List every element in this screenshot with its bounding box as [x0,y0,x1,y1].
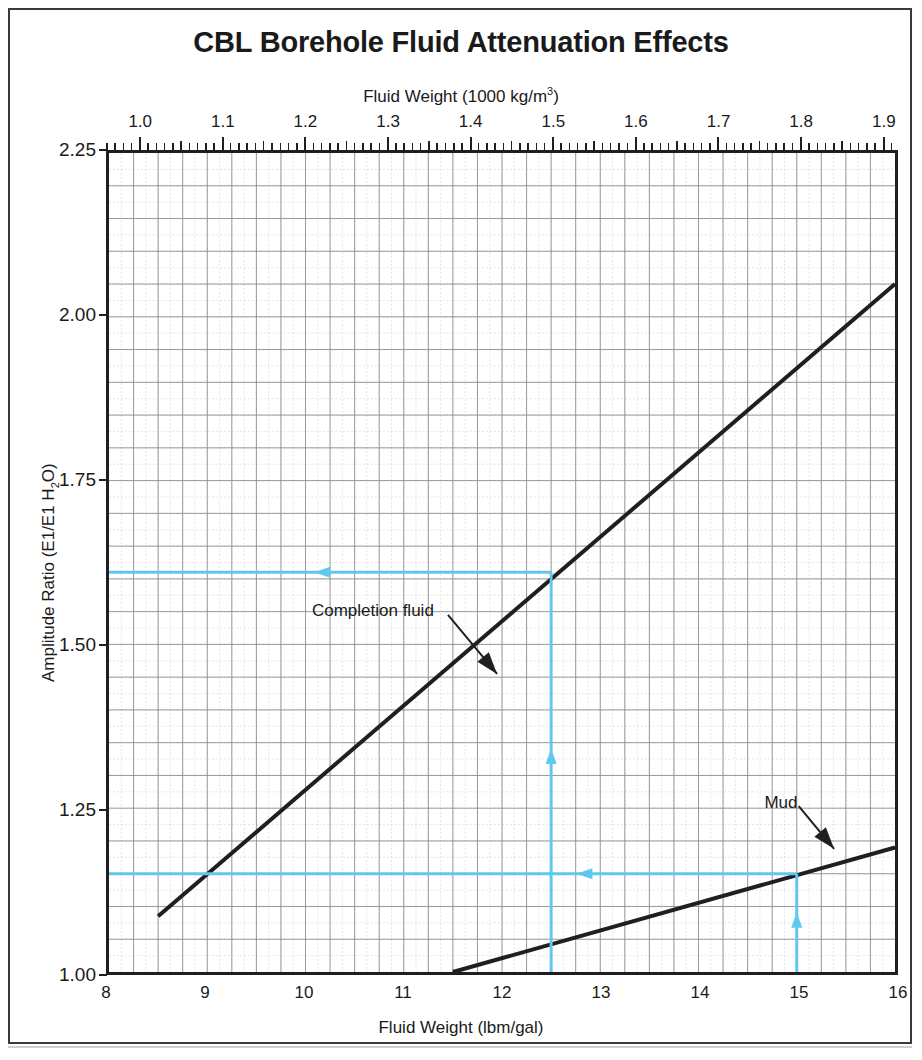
figure-page: CBL Borehole Fluid Attenuation Effects F… [0,0,922,1060]
y-tick-label-2.25: 2.25 [59,139,96,161]
top-tick-minor [329,143,331,150]
top-tick-minor [354,143,356,150]
top-tick-minor [156,143,158,150]
top-tick-minor [213,143,215,150]
y-tick-label-1.50: 1.50 [59,634,96,656]
top-tick-minor [618,143,620,150]
top-tick-minor [759,141,761,150]
top-tick-minor [660,143,662,150]
top-x-tick-label-1.0: 1.0 [128,112,152,132]
top-tick-minor [602,143,604,150]
top-tick-minor [668,143,670,150]
y-tick-label-1.75: 1.75 [59,469,96,491]
top-tick-minor [337,143,339,150]
top-tick-minor [246,143,248,150]
completion-fluid-vertical-arrowhead [546,748,557,764]
y-tick-label-1.25: 1.25 [59,799,96,821]
top-x-tick-label-1.7: 1.7 [707,112,731,132]
top-tick-minor [180,141,182,150]
top-tick-minor [676,141,678,150]
top-tick-minor [436,143,438,150]
top-tick-minor [131,143,133,150]
y-tick-label-1.00: 1.00 [59,964,96,986]
top-tick-minor [726,143,728,150]
mud-annotation-arrowhead [814,827,834,849]
x-tick-label-15: 15 [790,983,809,1003]
top-x-tick-label-1.2: 1.2 [294,112,318,132]
top-tick-minor [403,143,405,150]
top-tick-minor [313,143,315,150]
top-tick-minor [783,143,785,150]
top-tick-major [800,137,802,150]
top-tick-minor [255,143,257,150]
top-tick-minor [271,143,273,150]
top-x-tick-label-1.3: 1.3 [376,112,400,132]
top-tick-minor [585,143,587,150]
top-tick-minor [114,143,116,150]
top-tick-minor [833,143,835,150]
top-tick-minor [494,143,496,150]
top-tick-minor [428,141,430,150]
top-tick-minor [321,143,323,150]
top-tick-minor [577,143,579,150]
top-tick-minor [172,143,174,150]
plot-area: Completion fluidMud [106,150,898,975]
annotation-layer [109,153,895,972]
top-tick-minor [263,141,265,150]
top-tick-minor [742,143,744,150]
figure-bottom-rule [8,1046,912,1048]
top-tick-minor [684,143,686,150]
y-tick-label-2.00: 2.00 [59,304,96,326]
completion-fluid-horizontal-arrowhead [314,567,330,578]
top-tick-minor [866,143,868,150]
top-tick-minor [412,143,414,150]
top-tick-minor [197,143,199,150]
top-tick-minor [775,143,777,150]
top-tick-major [304,137,306,150]
top-tick-minor [478,143,480,150]
top-x-tick-label-1.9: 1.9 [872,112,896,132]
top-x-tick-label-1.5: 1.5 [541,112,565,132]
top-axis-title-suffix: ) [553,87,559,106]
mud-vertical-arrowhead [791,912,802,928]
top-tick-minor [205,143,207,150]
top-tick-minor [230,143,232,150]
top-x-tick-label-1.8: 1.8 [789,112,813,132]
top-tick-minor [709,143,711,150]
top-tick-minor [808,143,810,150]
x-tick-label-13: 13 [592,983,611,1003]
top-tick-minor [560,143,562,150]
top-tick-minor [701,143,703,150]
top-tick-major [470,137,472,150]
top-tick-minor [874,143,876,150]
top-axis-title: Fluid Weight (1000 kg/m3) [0,85,922,107]
top-tick-minor [891,143,893,150]
top-x-tick-label-1.4: 1.4 [459,112,483,132]
top-tick-minor [593,141,595,150]
top-tick-minor [511,141,513,150]
x-tick-label-9: 9 [200,983,209,1003]
top-tick-minor [362,143,364,150]
top-tick-minor [420,143,422,150]
y-axis-title: Amplitude Ratio (E1/E1 H2O) [39,323,60,823]
top-tick-minor [858,143,860,150]
top-tick-minor [395,143,397,150]
top-tick-minor [379,143,381,150]
bottom-axis-title: Fluid Weight (lbm/gal) [0,1018,922,1038]
y-axis-title-main: Amplitude Ratio (E1/E1 H [39,488,58,682]
top-tick-minor [453,143,455,150]
top-tick-minor [288,143,290,150]
top-tick-minor [544,143,546,150]
top-tick-major [883,137,885,150]
top-x-tick-label-1.6: 1.6 [624,112,648,132]
top-tick-minor [610,143,612,150]
top-tick-minor [296,143,298,150]
top-tick-minor [850,143,852,150]
top-tick-minor [750,143,752,150]
top-tick-minor [238,143,240,150]
top-tick-minor [280,143,282,150]
x-tick-label-14: 14 [691,983,710,1003]
top-tick-minor [370,143,372,150]
y-axis-title-tail: O) [39,463,58,482]
top-tick-minor [792,143,794,150]
